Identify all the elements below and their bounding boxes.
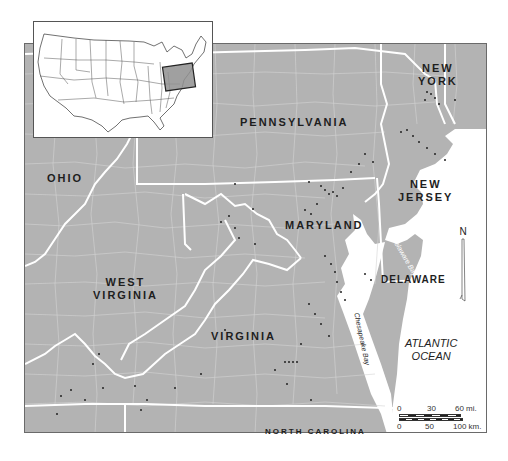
label-new-york-line1: NEW	[418, 62, 458, 75]
label-west-virginia: WEST VIRGINIA	[93, 276, 158, 302]
scale-km-50: 50	[425, 422, 434, 431]
scale-km-0: 0	[397, 422, 401, 431]
label-ohio: OHIO	[47, 172, 83, 185]
label-new-jersey-line1: NEW	[398, 178, 453, 191]
label-new-jersey-line2: JERSEY	[398, 191, 453, 204]
label-maryland: MARYLAND	[285, 219, 364, 232]
label-pennsylvania: PENNSYLVANIA	[240, 116, 349, 129]
label-atlantic-line2: OCEAN	[405, 350, 457, 363]
label-west-virginia-line1: WEST	[93, 276, 158, 289]
label-new-york: NEW YORK	[418, 62, 458, 88]
label-north-carolina: NORTH CAROLINA	[265, 425, 366, 438]
label-virginia: VIRGINIA	[211, 330, 276, 343]
scale-mi-60: 60 mi.	[455, 404, 477, 413]
us-outline-map	[34, 22, 214, 139]
north-label: N	[456, 226, 470, 237]
label-new-jersey: NEW JERSEY	[398, 178, 453, 204]
scale-mi-30: 30	[427, 404, 436, 413]
scale-bar: 0 30 60 mi. 0 50 100 km.	[397, 404, 487, 432]
scale-bar-km	[399, 418, 463, 421]
label-new-york-line2: YORK	[418, 75, 458, 88]
label-west-virginia-line2: VIRGINIA	[93, 289, 158, 302]
us-locator-inset	[33, 21, 213, 138]
label-atlantic-line1: ATLANTIC	[405, 337, 457, 350]
scale-mi-0: 0	[397, 404, 401, 413]
north-arrow: N	[456, 226, 470, 306]
study-area-highlight	[162, 63, 195, 91]
scale-km-100: 100 km.	[453, 422, 481, 431]
label-atlantic-ocean: ATLANTIC OCEAN	[405, 337, 457, 363]
scale-bar-miles	[399, 414, 461, 417]
north-arrow-icon	[456, 237, 470, 303]
